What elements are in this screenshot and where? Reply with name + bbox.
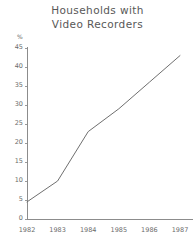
y-tick-label: 35: [1, 82, 23, 89]
x-tick-label: 1983: [43, 226, 73, 234]
y-tick-label: 40: [1, 63, 23, 70]
y-tick-mark: [25, 124, 27, 125]
y-tick-mark: [25, 105, 27, 106]
y-tick-label: 45: [1, 44, 23, 51]
y-tick-mark: [25, 67, 27, 68]
y-tick-label: 30: [1, 101, 23, 108]
chart-title: Households with Video Recorders: [0, 3, 195, 31]
y-tick-mark: [25, 219, 27, 220]
y-tick-label: 15: [1, 158, 23, 165]
y-tick-label: 5: [1, 196, 23, 203]
chart-container: Households with Video Recorders % 051015…: [0, 0, 195, 251]
x-tick-label: 1986: [134, 226, 164, 234]
x-tick-label: 1984: [73, 226, 103, 234]
y-axis-line: [27, 47, 28, 220]
y-tick-label: 0: [1, 215, 23, 222]
data-series-line: [0, 0, 195, 251]
y-tick-mark: [25, 143, 27, 144]
y-tick-mark: [25, 86, 27, 87]
y-tick-label: 10: [1, 177, 23, 184]
x-tick-label: 1982: [12, 226, 42, 234]
x-axis-line: [27, 219, 193, 220]
y-tick-label: 20: [1, 139, 23, 146]
y-axis-unit-label: %: [17, 33, 23, 40]
y-tick-mark: [25, 181, 27, 182]
y-tick-mark: [25, 48, 27, 49]
y-tick-mark: [25, 162, 27, 163]
x-tick-label: 1987: [165, 226, 195, 234]
x-tick-label: 1985: [104, 226, 134, 234]
y-tick-mark: [25, 200, 27, 201]
y-tick-label: 25: [1, 120, 23, 127]
